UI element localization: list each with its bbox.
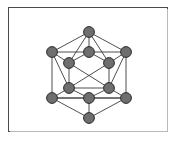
- icosahedron-graph: [0, 0, 177, 150]
- graph-node: [84, 47, 95, 58]
- graph-node: [84, 93, 95, 104]
- graph-edge: [52, 32, 89, 52]
- graph-edge: [52, 98, 89, 118]
- graph-node: [64, 83, 75, 94]
- graph-edge: [89, 98, 126, 118]
- graph-node: [84, 113, 95, 124]
- graph-node: [47, 47, 58, 58]
- graph-node: [121, 93, 132, 104]
- graph-node: [104, 83, 115, 94]
- graph-edge: [89, 32, 126, 52]
- graph-node: [64, 58, 75, 69]
- figure-root: [0, 0, 177, 150]
- graph-node: [47, 93, 58, 104]
- graph-node: [121, 47, 132, 58]
- edge-layer: [52, 32, 126, 118]
- graph-node: [84, 27, 95, 38]
- graph-node: [104, 58, 115, 69]
